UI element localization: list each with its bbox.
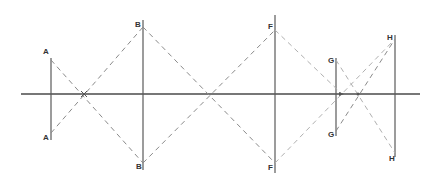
crossing-marker-2 — [357, 93, 360, 96]
label-f-top: F — [268, 22, 273, 31]
label-a-top: A — [43, 47, 49, 56]
label-b-top: B — [135, 20, 141, 29]
ray-f-bottom-to-h-top — [275, 39, 395, 163]
ray-a-bottom-to-b-top — [51, 27, 143, 133]
label-b-bottom: B — [136, 162, 142, 171]
label-g-bottom: G — [328, 130, 334, 139]
ray-b-bottom-to-f-top — [143, 30, 275, 163]
label-f-bottom: F — [268, 163, 273, 172]
label-g-top: G — [328, 56, 334, 65]
ray-diagram: A A B B F F G G H H — [0, 0, 439, 182]
ray-a-top-to-b-bottom — [51, 60, 143, 163]
ray-g-top-to-h-bottom — [336, 60, 395, 153]
label-h-top: H — [387, 33, 393, 42]
label-h-bottom: H — [389, 154, 395, 163]
label-a-bottom: A — [43, 133, 49, 142]
ray-g-bottom-to-h-top — [336, 39, 395, 131]
crossing-arrow-icon — [339, 92, 344, 96]
